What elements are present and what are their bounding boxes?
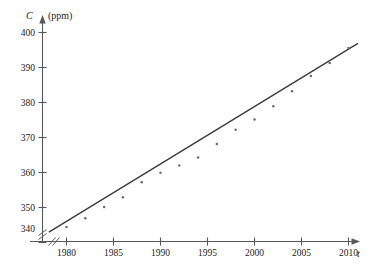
y-tick-label-380: 380: [21, 98, 36, 108]
x-axis-title-symbol: t: [357, 248, 360, 259]
x-tick-label-1985: 1985: [104, 248, 123, 258]
y-tick-label-360: 360: [21, 168, 36, 178]
data-point: [216, 143, 219, 146]
data-point: [178, 164, 181, 167]
co2-scatter-chart: 400 390 380 370 360 350 340 1980 1985 19…: [0, 0, 370, 269]
y-axis-title-unit: (ppm): [48, 10, 72, 22]
y-axis-arrow-icon: [39, 15, 45, 24]
data-point: [253, 118, 256, 121]
data-point: [328, 62, 331, 65]
x-tick-label-2010: 2010: [339, 248, 358, 258]
y-tick-label-400: 400: [21, 28, 36, 38]
data-point: [291, 90, 294, 93]
x-tick-label-2005: 2005: [292, 248, 311, 258]
x-tick-label-1990: 1990: [151, 248, 170, 258]
data-point: [140, 181, 143, 184]
x-tick-label-1980: 1980: [57, 248, 76, 258]
x-tick-label-2000: 2000: [245, 248, 264, 258]
data-point: [310, 75, 313, 78]
data-point: [347, 47, 350, 50]
y-axis-title-symbol: C: [26, 10, 33, 21]
data-point: [197, 156, 200, 159]
data-point: [272, 105, 275, 108]
data-point: [159, 172, 162, 175]
data-point: [122, 196, 125, 199]
data-point: [234, 129, 237, 132]
y-tick-label-390: 390: [21, 63, 36, 73]
data-point: [84, 217, 87, 220]
data-point: [65, 226, 68, 229]
regression-line: [49, 44, 357, 232]
chart-canvas: 400 390 380 370 360 350 340 1980 1985 19…: [0, 0, 370, 269]
x-axis-arrow-icon: [352, 238, 361, 244]
data-point: [103, 206, 106, 209]
y-tick-label-340: 340: [21, 224, 36, 234]
y-tick-label-350: 350: [21, 203, 36, 213]
y-tick-label-370: 370: [21, 133, 36, 143]
x-tick-label-1995: 1995: [198, 248, 217, 258]
